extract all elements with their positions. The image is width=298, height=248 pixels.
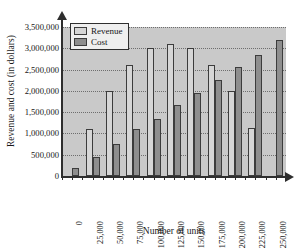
bar-revenue-200000 — [228, 91, 235, 176]
x-tick — [113, 176, 114, 180]
x-tick — [215, 176, 216, 180]
x-tick-minor — [245, 176, 246, 180]
x-tick-minor — [123, 176, 124, 180]
x-axis-title: Number of units — [62, 226, 286, 236]
bar-revenue-125000 — [167, 44, 174, 176]
x-axis-tick-labels: 025,00050,00075,000100,000125,000150,000… — [62, 181, 292, 223]
x-tick — [194, 176, 195, 180]
bar-cost-125000 — [174, 105, 181, 176]
y-tick-label: 0 — [55, 171, 59, 181]
x-tick-label: 0 — [75, 221, 84, 225]
legend-item-cost: Cost — [74, 37, 123, 47]
bar-cost-50000 — [113, 144, 120, 176]
bar-revenue-75000 — [126, 65, 133, 176]
x-tick-minor — [205, 176, 206, 180]
y-axis-arrow-icon — [57, 11, 67, 20]
bar-group — [228, 27, 242, 176]
x-tick-minor — [225, 176, 226, 180]
bar-cost-175000 — [215, 80, 222, 176]
x-tick-minor — [266, 176, 267, 180]
y-tick-label: 2,500,000 — [25, 65, 59, 75]
x-tick — [235, 176, 236, 180]
y-tick-label: 2,000,000 — [25, 86, 59, 96]
x-tick — [154, 176, 155, 180]
bar-cost-75000 — [133, 129, 140, 176]
bar-cost-150000 — [194, 93, 201, 176]
bar-cost-25000 — [93, 157, 100, 176]
x-tick — [93, 176, 94, 180]
y-tick-label: 1,500,000 — [25, 107, 59, 117]
bar-group — [269, 27, 283, 176]
bar-revenue-225000 — [248, 128, 255, 176]
bar-group — [208, 27, 222, 176]
bar-group — [147, 27, 161, 176]
legend-item-revenue: Revenue — [74, 26, 123, 36]
bar-revenue-150000 — [187, 48, 194, 176]
bar-group — [248, 27, 262, 176]
x-tick-minor — [103, 176, 104, 180]
y-tick-label: 500,000 — [31, 150, 59, 160]
x-tick-minor — [143, 176, 144, 180]
legend-label-cost: Cost — [91, 37, 108, 47]
x-tick-minor — [184, 176, 185, 180]
y-axis-title-text: Revenue and cost (in dollars) — [6, 35, 16, 147]
x-tick-minor — [82, 176, 83, 180]
bar-cost-225000 — [255, 55, 262, 176]
bar-group — [167, 27, 181, 176]
x-tick — [174, 176, 175, 180]
y-tick-label: 3,500,000 — [25, 22, 59, 32]
bar-group — [187, 27, 201, 176]
chart-legend: Revenue Cost — [70, 23, 129, 50]
x-tick — [72, 176, 73, 180]
legend-label-revenue: Revenue — [91, 26, 123, 36]
legend-swatch-cost-icon — [74, 38, 87, 46]
legend-swatch-revenue-icon — [74, 27, 87, 35]
bar-revenue-175000 — [208, 65, 215, 176]
bar-cost-200000 — [235, 67, 242, 176]
x-tick — [255, 176, 256, 180]
bar-cost-250000 — [276, 40, 283, 176]
x-tick-minor — [164, 176, 165, 180]
bar-revenue-25000 — [86, 129, 93, 176]
y-tick-label: 3,000,000 — [25, 43, 59, 53]
x-tick — [133, 176, 134, 180]
x-tick — [276, 176, 277, 180]
bar-cost-0 — [72, 168, 79, 176]
x-tick-minor — [62, 176, 63, 180]
bar-revenue-50000 — [106, 91, 113, 176]
bar-cost-100000 — [154, 119, 161, 176]
y-tick-label: 1,000,000 — [25, 128, 59, 138]
y-axis-tick-labels: 0500,0001,000,0001,500,0002,000,0002,500… — [16, 0, 62, 182]
bar-revenue-100000 — [147, 48, 154, 176]
